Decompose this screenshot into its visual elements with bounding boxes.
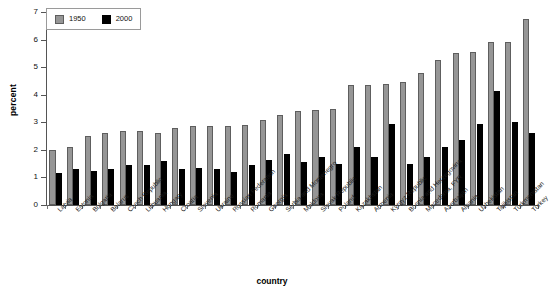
bar-group: [82, 12, 100, 205]
bar-group: [240, 12, 258, 205]
y-tick-label: 4: [26, 91, 38, 99]
bar-group: [187, 12, 205, 205]
bar-1950: [470, 52, 476, 205]
bar-2000: [231, 172, 237, 205]
bar-group: [65, 12, 83, 205]
bar-1950: [365, 85, 371, 205]
bar-group: [398, 12, 416, 205]
bar-group: [170, 12, 188, 205]
y-tick-label: 6: [26, 36, 38, 44]
y-tick: [41, 177, 46, 178]
bar-group: [468, 12, 486, 205]
bar-2000: [477, 124, 483, 205]
bar-1950: [383, 84, 389, 205]
bar-1950: [505, 42, 511, 205]
legend-label-1950: 1950: [69, 15, 86, 23]
y-axis-title: percent: [8, 65, 18, 135]
bar-group: [275, 12, 293, 205]
bar-2000: [179, 169, 185, 205]
bar-1950: [49, 150, 55, 205]
bar-group: [520, 12, 538, 205]
gray-swatch-icon: [55, 15, 64, 24]
y-tick-label: 2: [26, 146, 38, 154]
bar-2000: [56, 173, 62, 205]
bar-group: [485, 12, 503, 205]
x-axis-title: country: [0, 276, 544, 286]
y-tick: [41, 67, 46, 68]
bar-group: [152, 12, 170, 205]
x-tick: [47, 205, 48, 209]
bar-group: [380, 12, 398, 205]
bar-group: [363, 12, 381, 205]
bar-group: [293, 12, 311, 205]
bar-1950: [400, 82, 406, 205]
bar-1950: [523, 19, 529, 205]
bar-2000: [214, 169, 220, 205]
bar-1950: [488, 42, 494, 205]
black-swatch-icon: [102, 15, 111, 24]
chart-legend: 1950 2000: [46, 8, 141, 30]
y-tick-label: 1: [26, 173, 38, 181]
y-tick: [41, 122, 46, 123]
bar-group: [47, 12, 65, 205]
legend-label-2000: 2000: [116, 15, 133, 23]
y-tick-label: 7: [26, 8, 38, 16]
bar-2000: [108, 169, 114, 205]
y-tick: [41, 40, 46, 41]
y-tick: [41, 150, 46, 151]
bar-group: [117, 12, 135, 205]
y-tick-label: 3: [26, 118, 38, 126]
bar-group: [135, 12, 153, 205]
bar-group: [328, 12, 346, 205]
bar-group: [100, 12, 118, 205]
y-tick-label: 0: [26, 201, 38, 209]
y-tick-label: 5: [26, 63, 38, 71]
legend-item-1950: 1950: [55, 15, 86, 24]
plot-area: [47, 12, 538, 205]
bar-group: [503, 12, 521, 205]
bar-2000: [73, 169, 79, 205]
bar-group: [222, 12, 240, 205]
legend-item-2000: 2000: [102, 15, 133, 24]
y-tick: [41, 95, 46, 96]
bar-group: [205, 12, 223, 205]
